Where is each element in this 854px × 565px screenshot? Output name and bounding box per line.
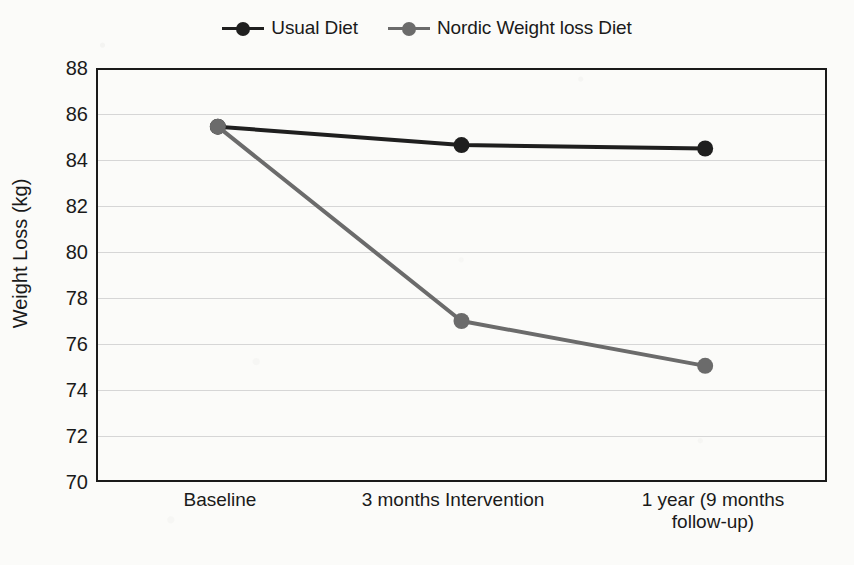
y-tick-label: 86 [26,104,88,124]
x-tick-label-baseline: Baseline [110,489,330,511]
legend-label-usual-diet: Usual Diet [271,18,358,37]
legend-marker-usual-diet [222,20,264,36]
y-tick-label: 80 [26,242,88,262]
y-tick-label: 74 [26,380,88,400]
gridline-80 [98,252,825,253]
gridline-82 [98,206,825,207]
gridline-84 [98,160,825,161]
gridline-72 [98,436,825,437]
y-tick-label: 84 [26,150,88,170]
x-tick-line2: follow-up) [603,511,823,533]
gridline-86 [98,114,825,115]
y-tick-label: 70 [26,472,88,492]
y-tick-label: 72 [26,426,88,446]
x-tick-line1: 3 months Intervention [343,489,563,511]
x-tick-line1: Baseline [110,489,330,511]
x-axis-ticks: Baseline 3 months Intervention 1 year (9… [96,489,827,559]
legend-entry-nordic-weight-loss-diet: Nordic Weight loss Diet [388,18,632,37]
gridline-74 [98,390,825,391]
x-tick-label-1-year-follow-up: 1 year (9 months follow-up) [603,489,823,534]
chart-legend: Usual Diet Nordic Weight loss Diet [0,18,854,37]
legend-marker-nordic-weight-loss-diet [388,20,430,36]
y-tick-label: 76 [26,334,88,354]
x-tick-label-3-months-intervention: 3 months Intervention [343,489,563,511]
chart-figure: Usual Diet Nordic Weight loss Diet 88 86… [0,0,854,565]
legend-label-nordic-weight-loss-diet: Nordic Weight loss Diet [437,18,632,37]
y-tick-label: 88 [26,58,88,78]
legend-entry-usual-diet: Usual Diet [222,18,358,37]
y-tick-label: 78 [26,288,88,308]
plot-area [96,68,827,482]
gridline-76 [98,344,825,345]
gridline-78 [98,298,825,299]
y-axis-title: Weight Loss (kg) [9,64,32,444]
x-tick-line1: 1 year (9 months [603,489,823,511]
y-tick-label: 82 [26,196,88,216]
